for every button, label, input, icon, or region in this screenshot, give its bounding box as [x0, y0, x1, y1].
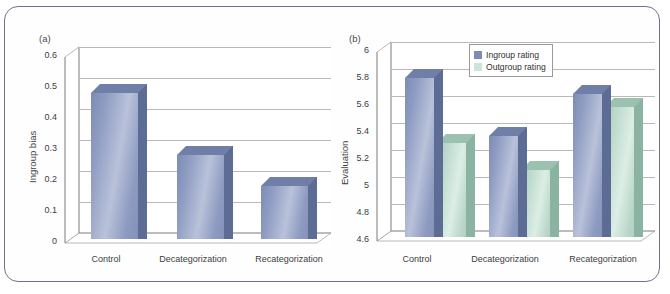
panel-a-ytick-0: 0: [27, 236, 57, 246]
panel-a-xlabel-recategorization: Recategorization: [241, 254, 337, 264]
bar-side: [224, 146, 233, 239]
bar-top: [177, 146, 233, 155]
panel-b-xlabel-recategorization: Recategorization: [553, 254, 653, 264]
panel-a-gridline-0_6: [79, 47, 331, 48]
panel-a-gridline-0_5: [79, 78, 331, 79]
bar-side: [518, 127, 527, 237]
panel-a-ytick-0_5: 0.5: [27, 81, 57, 91]
bar-side: [634, 98, 643, 237]
panel-a-xlabel-control: Control: [73, 254, 139, 264]
panel-b-bar-recategorization-ingroup: [573, 94, 611, 237]
panel-b-ytick-4_6: 4.6: [337, 234, 369, 244]
panel-b-ytick-5_2: 5.2: [337, 153, 369, 163]
bar-side: [602, 85, 611, 237]
bar-side: [466, 134, 475, 237]
panel-a-ytick-0_3: 0.3: [27, 143, 57, 153]
figure-frame: (a) Ingroup bias 0.6 0.5 0.4 0.3 0.2 0.1…: [4, 6, 660, 282]
panel-b-ytick-5_8: 5.8: [337, 72, 369, 82]
panel-b-xlabel-control: Control: [381, 254, 453, 264]
panel-b-ytick-5_4: 5.4: [337, 126, 369, 136]
legend-item-ingroup: Ingroup rating: [474, 49, 546, 60]
panel-b-ytick-4_8: 4.8: [337, 207, 369, 217]
panel-a-ytick-0_6: 0.6: [27, 50, 57, 60]
panel-a-ytick-0_1: 0.1: [27, 205, 57, 215]
legend-item-outgroup: Outgroup rating: [474, 61, 546, 72]
panel-a-ytick-0_4: 0.4: [27, 112, 57, 122]
bar-side: [308, 177, 317, 239]
panel-a-ytick-0_2: 0.2: [27, 174, 57, 184]
panel-b-legend: Ingroup rating Outgroup rating: [469, 44, 553, 77]
panel-a-plot-area: [65, 47, 331, 249]
panel-b-plot-area: Ingroup rating Outgroup rating: [377, 42, 655, 249]
panel-b-gridline-6: [391, 42, 655, 43]
legend-label-ingroup: Ingroup rating: [486, 50, 539, 60]
panel-b-xlabel-decategorization: Decategorization: [457, 254, 553, 264]
bar-top: [91, 84, 147, 93]
panel-b-ytick-5: 5: [337, 180, 369, 190]
panel-b-bar-decategorization-ingroup: [489, 136, 527, 237]
panel-a-bar-control: [91, 93, 147, 239]
bar-side: [434, 69, 443, 237]
panel-b-bar-control-ingroup: [405, 78, 443, 237]
legend-label-outgroup: Outgroup rating: [486, 62, 546, 72]
panel-a: (a) Ingroup bias 0.6 0.5 0.4 0.3 0.2 0.1…: [13, 7, 337, 281]
panel-a-bar-recategorization: [261, 186, 317, 239]
panel-a-tag: (a): [39, 33, 51, 44]
legend-swatch-ingroup-icon: [474, 51, 482, 59]
panel-b-tag: (b): [349, 33, 361, 44]
panel-a-xlabel-decategorization: Decategorization: [145, 254, 241, 264]
panel-b-ytick-6: 6: [337, 45, 369, 55]
panel-b: (b) Evaluation 6 5.8 5.6 5.4 5.2 5 4.8 4…: [331, 7, 661, 281]
legend-swatch-outgroup-icon: [474, 63, 482, 71]
panel-b-ytick-5_6: 5.6: [337, 99, 369, 109]
bar-side: [550, 161, 559, 237]
bar-side: [138, 84, 147, 239]
panel-a-bar-decategorization: [177, 155, 233, 239]
bar-top: [261, 177, 317, 186]
